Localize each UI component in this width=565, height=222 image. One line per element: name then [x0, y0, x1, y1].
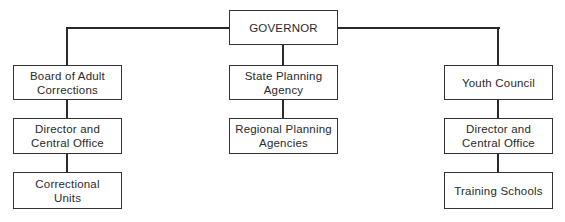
node-label: Youth Council [462, 76, 535, 90]
node-regional-planning-agencies: Regional Planning Agencies [229, 118, 338, 154]
node-label: Central Office [462, 136, 535, 150]
node-right-director-central-office: Director and Central Office [444, 118, 553, 154]
connector-right-down [497, 27, 499, 66]
node-board-of-adult-corrections: Board of Adult Corrections [13, 65, 122, 100]
node-state-planning-agency: State Planning Agency [229, 65, 338, 100]
node-label: Agency [264, 83, 304, 97]
node-governor: GOVERNOR [229, 10, 338, 45]
connector-board-director [66, 98, 68, 119]
connector-director-correctional [66, 152, 68, 173]
node-label: Training Schools [454, 184, 542, 198]
connector-youth-director [497, 98, 499, 119]
node-label: State Planning [245, 69, 323, 83]
node-label: Director and [35, 122, 100, 136]
connector-director-training [497, 152, 499, 173]
node-training-schools: Training Schools [444, 172, 553, 209]
node-label: Units [54, 191, 81, 205]
node-label: Board of Adult [30, 69, 105, 83]
node-label: Regional Planning [235, 122, 332, 136]
node-label: Central Office [31, 136, 104, 150]
node-left-director-central-office: Director and Central Office [13, 118, 122, 154]
node-youth-council: Youth Council [444, 65, 553, 100]
node-correctional-units: Correctional Units [13, 172, 122, 209]
node-label: Corrections [37, 83, 98, 97]
connector-state-regional [282, 98, 284, 119]
node-label: Director and [466, 122, 531, 136]
node-label: Agencies [259, 136, 308, 150]
connector-left-down [66, 27, 68, 66]
connector-governor-state [282, 43, 284, 66]
node-label: Correctional [35, 177, 99, 191]
node-label: GOVERNOR [249, 21, 318, 35]
